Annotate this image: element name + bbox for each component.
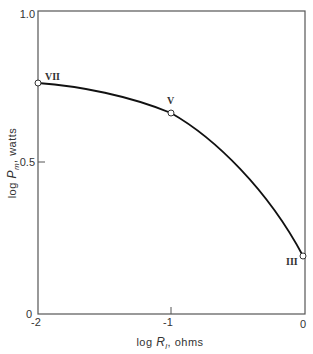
point-label-iii: III bbox=[286, 256, 298, 267]
data-point-vii bbox=[35, 80, 41, 86]
plot-frame bbox=[38, 11, 305, 314]
data-point-v bbox=[168, 110, 174, 116]
data-curve bbox=[38, 83, 303, 256]
x-tick-label--1: -1 bbox=[163, 316, 173, 328]
y-axis-label: log Pm, watts bbox=[5, 128, 21, 199]
point-label-vii: VII bbox=[45, 71, 60, 82]
data-point-iii bbox=[300, 253, 306, 259]
y-tick-label-1.0: 1.0 bbox=[20, 8, 35, 20]
x-tick-label--2: -2 bbox=[31, 316, 41, 328]
x-tick-label-0: 0 bbox=[300, 318, 306, 330]
y-tick-label-0.5: 0.5 bbox=[20, 156, 35, 168]
point-label-v: V bbox=[167, 95, 175, 106]
chart: 1.0 0.5 0 -2 -1 0 log Rl, ohms log Pm, w… bbox=[0, 0, 313, 354]
x-axis-label: log Rl, ohms bbox=[136, 335, 203, 351]
